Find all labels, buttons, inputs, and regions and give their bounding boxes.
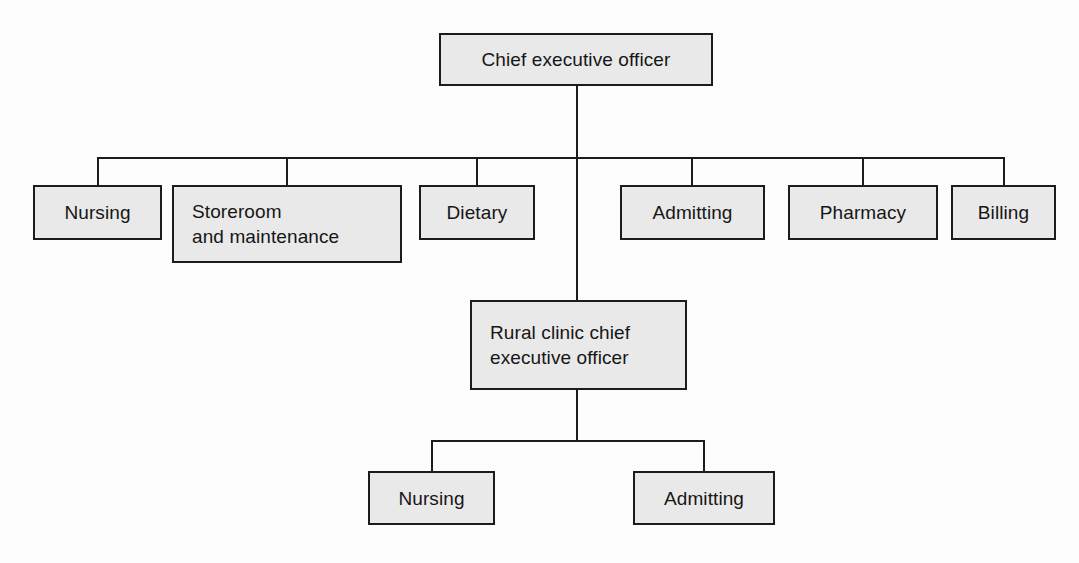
node-label: Storeroom and maintenance [192, 199, 339, 249]
connector-level4-bus [431, 440, 705, 442]
connector-drop-billing [1003, 157, 1005, 185]
connector-level2-bus [97, 157, 1005, 159]
node-pharmacy[interactable]: Pharmacy [788, 185, 938, 240]
connector-drop-rural-nursing [431, 440, 433, 471]
node-storeroom-and-maintenance[interactable]: Storeroom and maintenance [172, 185, 402, 263]
node-label: Rural clinic chief executive officer [490, 320, 630, 370]
node-rural-admitting[interactable]: Admitting [633, 471, 775, 525]
org-chart-diagram: Chief executive officer Nursing Storeroo… [0, 0, 1079, 563]
node-label: Chief executive officer [482, 47, 671, 72]
node-admitting[interactable]: Admitting [620, 185, 765, 240]
node-dietary[interactable]: Dietary [419, 185, 535, 240]
node-label: Dietary [447, 200, 508, 225]
node-rural-nursing[interactable]: Nursing [368, 471, 495, 525]
node-label: Nursing [398, 486, 464, 511]
node-billing[interactable]: Billing [951, 185, 1056, 240]
node-label: Billing [978, 200, 1029, 225]
node-nursing[interactable]: Nursing [33, 185, 162, 240]
connector-drop-pharmacy [862, 157, 864, 185]
node-label: Pharmacy [820, 200, 906, 225]
node-chief-executive-officer[interactable]: Chief executive officer [439, 33, 713, 86]
connector-drop-nursing [97, 157, 99, 185]
connector-rural-trunk [576, 390, 578, 442]
connector-drop-rural-admitting [703, 440, 705, 471]
node-label: Admitting [664, 486, 744, 511]
node-rural-clinic-chief-executive-officer[interactable]: Rural clinic chief executive officer [470, 300, 687, 390]
connector-drop-storeroom [286, 157, 288, 185]
node-label: Admitting [652, 200, 732, 225]
node-label: Nursing [64, 200, 130, 225]
connector-drop-admitting [691, 157, 693, 185]
connector-ceo-trunk [576, 86, 578, 300]
connector-drop-dietary [476, 157, 478, 185]
